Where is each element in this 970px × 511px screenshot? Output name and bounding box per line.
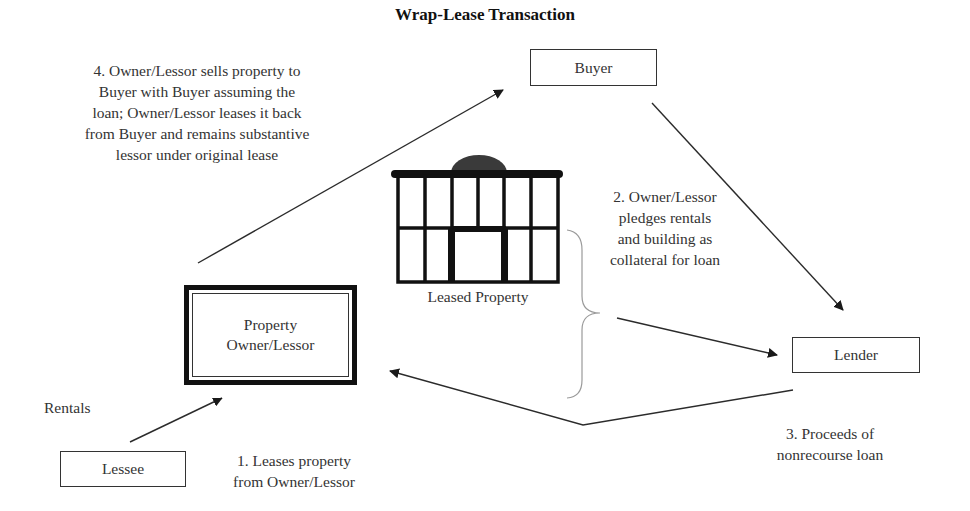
step-4-line-3: loan; Owner/Lessor leases it back [47, 102, 347, 123]
step-2-line-1: 2. Owner/Lessor [595, 186, 735, 207]
lender-label: Lender [834, 346, 878, 364]
step-4-note: 4. Owner/Lessor sells property to Buyer … [47, 60, 347, 165]
step-2-line-3: and building as [595, 228, 735, 249]
leased-property-label: Leased Property [400, 286, 556, 307]
owner-label-line-2: Owner/Lessor [227, 335, 315, 355]
lessee-label: Lessee [102, 460, 144, 478]
buyer-node: Buyer [530, 49, 657, 86]
owner-lessor-inner: Property Owner/Lessor [192, 293, 349, 377]
step-2-line-4: collateral for loan [595, 249, 735, 270]
step-3-line-2: nonrecourse loan [750, 444, 910, 465]
lender-node: Lender [792, 337, 920, 373]
arrow-pledge-to-lender [617, 318, 777, 355]
step-3-line-1: 3. Proceeds of [750, 423, 910, 444]
step-1-line-1: 1. Leases property [222, 450, 366, 471]
buyer-label: Buyer [575, 59, 613, 77]
arrow-proceeds-to-owner [390, 371, 793, 425]
step-2-note: 2. Owner/Lessor pledges rentals and buil… [595, 186, 735, 270]
building-icon [391, 155, 563, 283]
step-4-line-5: lessor under original lease [47, 144, 347, 165]
step-4-line-2: Buyer with Buyer assuming the [47, 81, 347, 102]
step-4-line-1: 4. Owner/Lessor sells property to [47, 60, 347, 81]
step-2-line-2: pledges rentals [595, 207, 735, 228]
lessee-node: Lessee [60, 451, 186, 487]
step-1-line-2: from Owner/Lessor [222, 471, 366, 492]
rentals-label: Rentals [44, 397, 91, 418]
owner-label-line-1: Property [227, 315, 315, 335]
step-1-note: 1. Leases property from Owner/Lessor [222, 450, 366, 492]
step-4-line-4: from Buyer and remains substantive [47, 123, 347, 144]
step-3-note: 3. Proceeds of nonrecourse loan [750, 423, 910, 465]
arrow-rentals-to-owner [130, 398, 222, 442]
owner-lessor-node: Property Owner/Lessor [184, 285, 357, 385]
